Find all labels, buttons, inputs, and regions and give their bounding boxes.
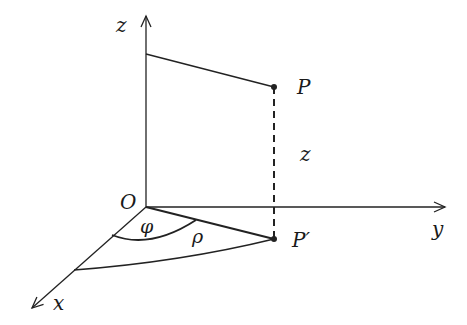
x-axis: [32, 207, 146, 308]
y-axis-label: y: [431, 217, 444, 241]
point-p-label: P: [296, 75, 311, 99]
height-label: z: [299, 142, 311, 166]
radius-segment: [146, 207, 274, 239]
angle-phi-label: φ: [140, 215, 154, 237]
origin-label: O: [120, 190, 136, 214]
x-axis-label: x: [53, 291, 64, 315]
z-axis-label: z: [115, 13, 127, 37]
point-p: [271, 84, 277, 90]
angle-arc: [112, 220, 196, 240]
height-segment: [146, 54, 274, 87]
radius-rho-label: ρ: [191, 225, 204, 247]
point-p-prime: [271, 236, 277, 242]
point-p-prime-label: P′: [291, 228, 310, 252]
cylindrical-coordinates-diagram: z y x O P P′ z φ ρ: [0, 0, 467, 325]
